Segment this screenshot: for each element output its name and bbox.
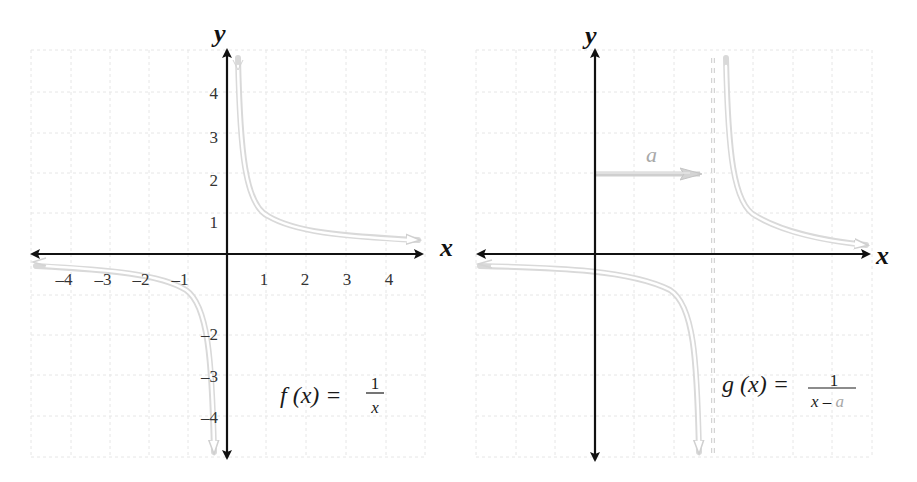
svg-text:3: 3 (210, 128, 219, 147)
y-tick-labels: 4 3 2 1 –2 –3 –4 (200, 84, 219, 427)
y-axis-label: y (582, 21, 597, 50)
svg-text:1: 1 (260, 270, 269, 289)
svg-text:1: 1 (371, 374, 380, 393)
formula-g: g (x) = 1 x – a (722, 371, 856, 411)
x-axis-label: x (875, 241, 889, 270)
svg-text:–4: –4 (55, 270, 74, 289)
svg-text:3: 3 (343, 270, 352, 289)
shift-label: a (646, 142, 657, 167)
svg-text:4: 4 (210, 84, 219, 103)
svg-text:2: 2 (210, 171, 219, 190)
svg-text:1: 1 (210, 213, 219, 232)
right-graph: a y x g (x) = 1 x – a (476, 21, 889, 460)
svg-text:–2: –2 (132, 270, 150, 289)
left-graph: y x –4 –3 –2 –1 1 2 3 4 4 3 2 1 –2 –3 –4… (31, 19, 453, 458)
svg-text:4: 4 (385, 270, 394, 289)
svg-text:1: 1 (830, 371, 839, 390)
y-axis-label: y (211, 19, 226, 48)
svg-text:x – a: x – a (810, 392, 844, 411)
x-tick-labels: –4 –3 –2 –1 1 2 3 4 (55, 270, 394, 289)
svg-text:–1: –1 (171, 270, 189, 289)
svg-text:–3: –3 (94, 270, 112, 289)
svg-text:–4: –4 (200, 408, 219, 427)
x-axis-label: x (439, 233, 453, 262)
formula-f: f (x) = 1 x (280, 374, 384, 417)
diagram-canvas: y x –4 –3 –2 –1 1 2 3 4 4 3 2 1 –2 –3 –4… (0, 0, 917, 482)
svg-text:f (x) =: f (x) = (280, 382, 342, 408)
svg-text:g (x) =: g (x) = (722, 371, 789, 397)
svg-text:2: 2 (301, 270, 310, 289)
svg-text:–2: –2 (200, 325, 218, 344)
svg-text:x: x (370, 398, 379, 417)
svg-text:–3: –3 (200, 367, 218, 386)
shift-arrow: a (596, 142, 700, 174)
